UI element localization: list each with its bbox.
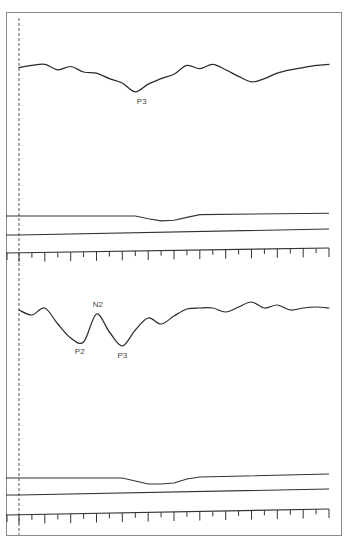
top-baseline-channel-1-line xyxy=(6,213,329,221)
bottom-baseline-channel-1-line xyxy=(6,474,329,484)
label-n2: N2 xyxy=(93,300,104,309)
top-ruler-axis xyxy=(6,248,329,253)
panel-bottom: P2N2P3 xyxy=(6,300,329,524)
bottom-ruler-axis xyxy=(6,509,329,515)
panels-container: P3P2N2P3 xyxy=(6,64,329,524)
panel-top: P3 xyxy=(6,64,329,262)
label-p3: P3 xyxy=(117,351,127,360)
evoked-potential-figure: P3P2N2P3 xyxy=(0,0,346,537)
top-baseline-channel-2-line xyxy=(6,229,329,235)
label-p2: P2 xyxy=(75,347,85,356)
label-p3: P3 xyxy=(137,97,147,106)
bottom-baseline-channel-2-line xyxy=(6,489,329,495)
bottom-evoked-waveform-line xyxy=(19,302,329,346)
figure-frame xyxy=(7,13,342,536)
top-evoked-waveform-line xyxy=(19,64,329,92)
